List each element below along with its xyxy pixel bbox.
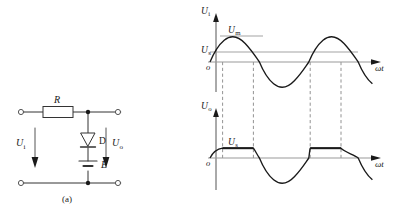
panel-waveform-plot: Ui Um Us o ωt: [198, 0, 396, 220]
output-voltage-label: Uo: [112, 137, 124, 151]
terminal-output-top: [115, 109, 120, 114]
output-y-axis-label: Uo: [201, 101, 212, 112]
um-subscript: m: [235, 29, 241, 36]
battery-label: E: [100, 159, 107, 170]
figure-container: R D E Ui Uo (a): [0, 0, 396, 220]
input-y-axis-subscript: i: [208, 10, 210, 17]
um-label: Um: [228, 25, 241, 36]
junction-dot-bottom: [86, 181, 90, 185]
terminal-input-bottom: [18, 180, 23, 185]
panel-circuit-schematic: R D E Ui Uo (a): [0, 0, 198, 220]
diode-triangle: [81, 133, 95, 146]
terminal-input-top: [18, 109, 23, 114]
junction-dot-top: [86, 110, 90, 114]
panel-a-caption: (a): [62, 194, 72, 204]
output-y-axis-arrowhead: [213, 108, 219, 117]
output-x-axis-label: ωt: [375, 159, 384, 169]
us-label-upper: Us: [201, 45, 211, 56]
input-y-axis-label: Ui: [201, 6, 210, 17]
input-x-axis-label: ωt: [375, 63, 384, 73]
circuit-svg: R D E Ui Uo: [0, 0, 198, 220]
resistor-symbol: [43, 107, 73, 118]
dashed-marker-group: [223, 62, 341, 158]
output-clipped-curve: [210, 148, 372, 183]
output-voltage-subscript: o: [120, 143, 124, 151]
input-voltage-label: Ui: [16, 137, 26, 151]
input-voltage-arrow-head: [32, 157, 39, 168]
input-voltage-subscript: i: [24, 143, 26, 151]
diode-label: D: [99, 136, 106, 146]
input-y-axis-arrowhead: [213, 13, 219, 22]
us-label-lower: Us: [228, 137, 238, 148]
terminal-output-bottom: [115, 180, 120, 185]
input-origin-label: o: [206, 62, 210, 72]
us-subscript-lower: s: [235, 141, 238, 148]
us-subscript-upper: s: [208, 49, 211, 56]
output-origin-label: o: [206, 158, 210, 168]
waveform-svg: Ui Um Us o ωt: [198, 0, 396, 220]
resistor-label: R: [53, 94, 60, 105]
output-y-axis-subscript: o: [208, 105, 212, 112]
